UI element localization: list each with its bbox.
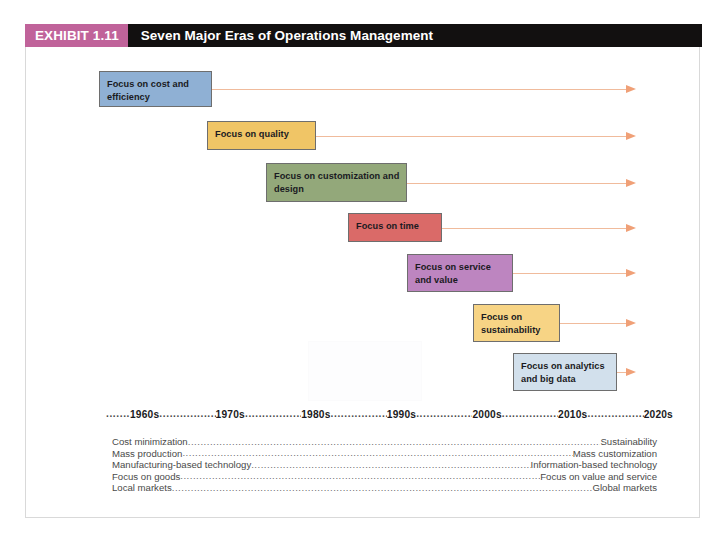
era-arrow-line [316,136,626,137]
contrast-left-label: Manufacturing-based technology [112,459,251,471]
contrast-row: Mass production.........................… [112,448,657,460]
axis-dot-separator: ........................................… [587,409,643,419]
contrast-right-label: Information-based technology [531,459,657,471]
contrast-left-label: Mass production [112,448,182,460]
exhibit-title-bar: Seven Major Eras of Operations Managemen… [128,24,702,47]
era-box: Focus on cost and efficiency [99,71,212,107]
era-box: Focus on sustainability [473,304,560,342]
era-arrow-head-icon [626,85,636,93]
contrast-row: Local markets...........................… [112,482,657,494]
exhibit-header: EXHIBIT 1.11 Seven Major Eras of Operati… [25,24,702,47]
era-arrow-line [212,89,626,90]
exhibit-title: Seven Major Eras of Operations Managemen… [141,28,433,43]
contrast-right-label: Sustainability [600,436,657,448]
contrast-dot-leader: ........................................… [182,447,572,459]
contrast-left-label: Cost minimization [112,436,188,448]
era-box: Focus on service and value [407,254,513,292]
contrast-row: Cost minimization.......................… [112,436,657,448]
era-box: Focus on time [348,213,442,242]
era-arrow-line [442,228,626,229]
contrast-right-label: Global markets [592,482,657,494]
era-arrow-line [513,273,626,274]
exhibit-number-tag: EXHIBIT 1.11 [25,24,128,47]
decade-label: 1970s [216,409,245,420]
contrast-right-label: Focus on value and service [540,471,657,483]
contrast-row: Manufacturing-based technology..........… [112,459,657,471]
era-arrow-line [617,372,626,373]
era-arrow-head-icon [626,179,636,187]
era-arrow-head-icon [626,132,636,140]
contrast-left-label: Focus on goods [112,471,180,483]
era-arrow-head-icon [626,269,636,277]
contrast-dot-leader: ........................................… [172,482,593,494]
era-arrow-line [560,323,626,324]
era-arrow-head-icon [626,368,636,376]
decade-axis: ........1960s...........................… [106,406,673,420]
axis-dot-separator: ........................................… [159,409,215,419]
axis-lead-dots: ........ [106,409,130,419]
contrast-dot-leader: ........................................… [188,436,601,448]
exhibit-content-frame: Focus on cost and efficiencyFocus on qua… [25,47,700,518]
scan-watermark-artifact [308,341,422,401]
decade-label: 1960s [130,409,159,420]
contrast-row: Focus on goods..........................… [112,471,657,483]
contrast-left-label: Local markets [112,482,172,494]
contrast-right-label: Mass customization [573,448,657,460]
contrast-list: Cost minimization.......................… [112,436,657,494]
axis-dot-separator: ........................................… [502,409,558,419]
decade-label: 1980s [301,409,330,420]
axis-dot-separator: ........................................… [245,409,301,419]
era-arrow-head-icon [626,224,636,232]
decade-label: 2000s [472,409,501,420]
decade-label: 2010s [558,409,587,420]
era-box: Focus on customization and design [266,163,407,202]
era-arrow-line [407,183,626,184]
era-box: Focus on quality [207,121,316,150]
decade-label: 2020s [644,409,673,420]
era-arrow-head-icon [626,319,636,327]
contrast-dot-leader: ........................................… [251,459,530,471]
era-box: Focus on analytics and big data [513,353,617,391]
decade-label: 1990s [387,409,416,420]
contrast-dot-leader: ........................................… [180,470,540,482]
axis-dot-separator: ........................................… [331,409,387,419]
axis-dot-separator: ........................................… [416,409,472,419]
